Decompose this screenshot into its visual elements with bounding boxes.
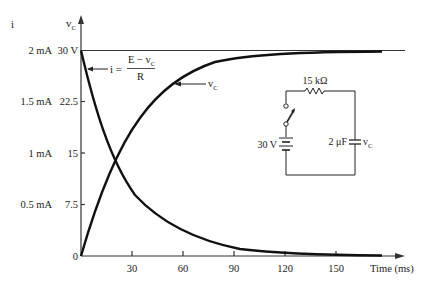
svg-text:E − vC: E − vC [128,54,156,68]
vc-annotation: vC [174,78,218,92]
tick-15: 15 [68,148,79,159]
switch-terminal [284,104,288,108]
tick-x30: 30 [127,263,138,274]
resistor-icon [305,88,324,94]
axis-label-i: i [11,18,14,30]
source-label: 30 V [257,139,277,150]
current-equation: i = E − vC R [87,54,156,82]
capacitor-label: 2 μF [329,136,348,147]
tick-0-5ma: 0.5 mA [21,199,53,210]
battery-icon [279,138,293,156]
tick-7-5: 7.5 [65,199,78,210]
tick-x90: 90 [229,263,240,274]
tick-1-5ma: 1.5 mA [21,96,53,107]
resistor-label: 15 kΩ [303,75,328,86]
tick-1ma: 1 mA [28,148,52,159]
rc-circuit [279,88,361,175]
tick-0: 0 [73,251,78,262]
svg-text:R: R [137,71,144,82]
y-axis-arrow-icon [78,15,84,24]
axis-label-vc: vC [66,17,77,32]
current-curve [81,51,382,256]
tick-x150: 150 [328,263,344,274]
svg-text:i =: i = [110,63,122,75]
vc-curve [81,52,382,257]
tick-22-5: 22.5 [60,96,78,107]
arrow-icon [87,67,93,72]
tick-x60: 60 [178,263,189,274]
svg-text:vC: vC [208,78,218,92]
rc-charging-diagram: i vC 30 V 22.5 15 7.5 0 2 mA 1.5 mA 1 mA… [0,0,429,284]
x-axis-arrow-icon [395,253,405,259]
capacitor-voltage-label: vC [363,136,373,150]
tick-x120: 120 [277,263,293,274]
tick-2ma: 2 mA [28,45,52,56]
x-axis-title: Time (ms) [370,263,414,275]
tick-30v: 30 V [57,45,78,56]
